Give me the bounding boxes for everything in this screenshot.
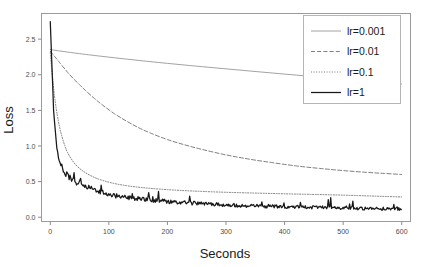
legend-label-lr-0-01: lr=0.01: [347, 45, 380, 57]
y-axis-title: Loss: [1, 106, 16, 134]
y-tick-label: 2.0: [26, 71, 36, 78]
x-axis-title: Seconds: [200, 246, 251, 261]
chart-svg: 0100200300400500600 0.00.51.01.52.02.5 S…: [0, 0, 421, 267]
y-axis-ticks: 0.00.51.01.52.02.5: [26, 36, 42, 221]
legend-label-lr-0-001: lr=0.001: [347, 25, 385, 37]
y-tick-label: 2.5: [26, 36, 36, 43]
legend-label-lr-1: lr=1: [347, 86, 365, 98]
x-axis-ticks: 0100200300400500600: [48, 222, 407, 235]
y-tick-label: 1.0: [26, 143, 36, 150]
loss-vs-seconds-chart: 0100200300400500600 0.00.51.01.52.02.5 S…: [0, 0, 421, 267]
x-tick-label: 400: [279, 228, 291, 235]
x-tick-label: 300: [220, 228, 232, 235]
x-tick-label: 500: [337, 228, 349, 235]
x-tick-label: 0: [48, 228, 52, 235]
y-tick-label: 0.0: [26, 214, 36, 221]
legend: lr=0.001lr=0.01lr=0.1lr=1: [304, 16, 401, 104]
legend-label-lr-0-1: lr=0.1: [347, 66, 374, 78]
x-tick-label: 200: [162, 228, 174, 235]
y-tick-label: 0.5: [26, 178, 36, 185]
y-tick-label: 1.5: [26, 107, 36, 114]
x-tick-label: 600: [396, 228, 408, 235]
x-tick-label: 100: [103, 228, 115, 235]
